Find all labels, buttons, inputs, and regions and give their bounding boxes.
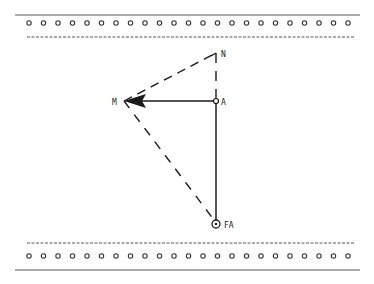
perforation-hole bbox=[99, 21, 103, 25]
perforation-hole bbox=[128, 254, 132, 258]
perforation-hole bbox=[273, 254, 277, 258]
perforation-hole bbox=[230, 254, 234, 258]
perforation-hole bbox=[215, 254, 219, 258]
bottom-perforation-row bbox=[27, 254, 350, 258]
perforation-hole bbox=[56, 21, 60, 25]
top-perforation-row bbox=[27, 21, 350, 25]
perforation-hole bbox=[143, 21, 147, 25]
perforation-hole bbox=[317, 254, 321, 258]
perforation-hole bbox=[27, 254, 31, 258]
perforation-hole bbox=[99, 254, 103, 258]
perforation-hole bbox=[27, 21, 31, 25]
label-n: N bbox=[221, 50, 226, 59]
perforation-hole bbox=[56, 254, 60, 258]
perforation-hole bbox=[85, 254, 89, 258]
perforation-hole bbox=[41, 254, 45, 258]
perforation-hole bbox=[288, 254, 292, 258]
vector-diagram: N A M FA bbox=[0, 0, 374, 284]
label-m: M bbox=[112, 98, 117, 107]
perforation-hole bbox=[157, 254, 161, 258]
label-a: A bbox=[221, 98, 226, 107]
perforation-hole bbox=[70, 254, 74, 258]
dashed-line-m-n bbox=[124, 53, 216, 101]
perforation-hole bbox=[85, 21, 89, 25]
perforation-hole bbox=[244, 21, 248, 25]
perforation-hole bbox=[114, 254, 118, 258]
perforation-hole bbox=[288, 21, 292, 25]
perforation-hole bbox=[172, 254, 176, 258]
perforation-hole bbox=[331, 21, 335, 25]
perforation-hole bbox=[331, 254, 335, 258]
perforation-hole bbox=[186, 254, 190, 258]
perforation-hole bbox=[215, 21, 219, 25]
perforation-hole bbox=[186, 21, 190, 25]
point-a bbox=[214, 99, 219, 104]
perforation-hole bbox=[244, 254, 248, 258]
perforation-hole bbox=[230, 21, 234, 25]
perforation-hole bbox=[172, 21, 176, 25]
perforation-hole bbox=[317, 21, 321, 25]
perforation-hole bbox=[143, 254, 147, 258]
label-fa: FA bbox=[224, 221, 234, 230]
perforation-hole bbox=[70, 21, 74, 25]
perforation-hole bbox=[114, 21, 118, 25]
perforation-hole bbox=[259, 254, 263, 258]
perforation-hole bbox=[346, 21, 350, 25]
dashed-line-n-tick bbox=[211, 53, 216, 56]
perforation-hole bbox=[128, 21, 132, 25]
perforation-hole bbox=[157, 21, 161, 25]
perforation-hole bbox=[302, 254, 306, 258]
perforation-hole bbox=[201, 21, 205, 25]
perforation-hole bbox=[346, 254, 350, 258]
perforation-hole bbox=[41, 21, 45, 25]
dashed-line-m-fa bbox=[124, 101, 214, 220]
perforation-hole bbox=[302, 21, 306, 25]
perforation-hole bbox=[201, 254, 205, 258]
perforation-hole bbox=[273, 21, 277, 25]
perforation-hole bbox=[259, 21, 263, 25]
point-fa-inner bbox=[215, 223, 217, 225]
